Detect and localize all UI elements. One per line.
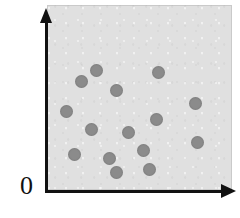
data-point <box>137 144 150 157</box>
data-point <box>189 97 202 110</box>
data-point <box>143 163 156 176</box>
data-point <box>60 105 73 118</box>
horizontal-axis-line <box>45 190 223 193</box>
data-point <box>110 84 123 97</box>
data-point <box>191 136 204 149</box>
data-point <box>110 166 123 179</box>
data-point <box>85 123 98 136</box>
data-point <box>150 113 163 126</box>
arrow-up-icon <box>40 8 52 23</box>
vertical-axis-line <box>45 20 48 192</box>
data-point <box>103 152 116 165</box>
data-point <box>75 75 88 88</box>
arrow-right-icon <box>221 184 236 198</box>
data-point <box>90 64 103 77</box>
origin-label: 0 <box>20 173 33 199</box>
data-point <box>152 66 165 79</box>
data-point <box>68 148 81 161</box>
scatter-plot-figure: 0 <box>0 0 240 218</box>
data-point <box>122 126 135 139</box>
plot-area-panel <box>47 5 232 190</box>
